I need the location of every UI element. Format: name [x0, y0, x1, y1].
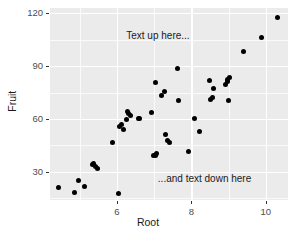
x-axis-tick-mark: [191, 201, 192, 204]
gridline-minor-horizontal: [50, 93, 288, 94]
data-point: [176, 98, 181, 103]
data-point: [116, 191, 121, 196]
data-point: [82, 184, 87, 189]
data-point: [119, 122, 124, 127]
x-axis-tick-label: 6: [97, 207, 137, 217]
data-point: [56, 185, 61, 190]
scatter-plot-figure: Text up here......and text down here 681…: [0, 0, 296, 237]
gridline-minor-horizontal: [50, 145, 288, 146]
gridline-minor-horizontal: [50, 198, 288, 199]
y-axis-tick-mark: [46, 13, 49, 14]
gridline-major-horizontal: [50, 119, 288, 120]
data-point: [154, 151, 159, 156]
data-point: [275, 15, 280, 20]
y-axis-tick-label: 90: [2, 61, 43, 71]
annotation-top: Text up here...: [126, 31, 189, 41]
data-point: [197, 129, 202, 134]
y-axis-tick-mark: [46, 119, 49, 120]
gridline-major-horizontal: [50, 66, 288, 67]
y-axis-tick-mark: [46, 66, 49, 67]
data-point: [95, 166, 100, 171]
data-point: [211, 86, 216, 91]
data-point: [163, 132, 168, 137]
data-point: [153, 80, 158, 85]
y-axis-title: Fruit: [7, 71, 18, 131]
plot-panel: Text up here......and text down here: [50, 8, 288, 200]
data-point: [124, 117, 129, 122]
data-point: [72, 190, 77, 195]
data-point: [186, 149, 191, 154]
y-axis-tick-label: 30: [2, 167, 43, 177]
x-axis-tick-label: 8: [171, 207, 211, 217]
data-point: [76, 178, 81, 183]
y-axis-tick-mark: [46, 172, 49, 173]
data-point: [121, 127, 126, 132]
data-point: [210, 95, 215, 100]
annotation-bottom: ...and text down here: [158, 174, 251, 184]
data-point: [137, 116, 142, 121]
x-axis-title: Root: [0, 217, 296, 228]
x-axis-tick-mark: [266, 201, 267, 204]
data-point: [128, 113, 133, 118]
data-point: [225, 79, 230, 84]
data-point: [192, 116, 197, 121]
data-point: [162, 89, 167, 94]
x-axis-tick-mark: [117, 201, 118, 204]
data-point: [226, 98, 231, 103]
data-point: [227, 75, 232, 80]
data-point: [207, 78, 212, 83]
y-axis-tick-label: 120: [2, 8, 43, 18]
data-point: [110, 140, 115, 145]
data-point: [241, 49, 246, 54]
data-point: [175, 66, 180, 71]
gridline-major-horizontal: [50, 13, 288, 14]
x-axis-tick-label: 10: [246, 207, 286, 217]
